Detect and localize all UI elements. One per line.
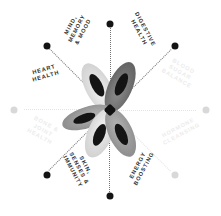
label-mind-memory-mood[interactable]: MIND, MEMORY & MOOD (55, 0, 99, 57)
endpoint-dot-east[interactable] (203, 107, 210, 114)
radial-benefits-wheel: MIND, MEMORY & MOOD DIGESTIVE HEALTH BLO… (0, 0, 221, 216)
label-digestive-health[interactable]: DIGESTIVE HEALTH (124, 6, 160, 57)
endpoint-dot-south[interactable] (107, 193, 114, 200)
endpoint-dot-southwest[interactable] (44, 172, 51, 179)
endpoint-dot-northeast[interactable] (172, 43, 179, 50)
endpoint-dot-west[interactable] (11, 107, 18, 114)
endpoint-dot-north[interactable] (107, 21, 114, 28)
endpoint-dot-southeast[interactable] (172, 172, 179, 179)
endpoint-dot-northwest[interactable] (44, 43, 51, 50)
